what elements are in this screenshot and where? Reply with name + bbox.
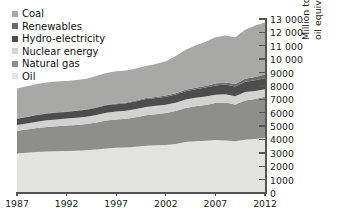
legend-item: Nuclear energy — [12, 46, 105, 58]
x-axis-tick-label: 2012 — [253, 199, 277, 209]
y-axis-title: Million tonnes oil equivalent — [300, 0, 323, 40]
legend-swatch-icon — [12, 48, 18, 54]
y-axis-tick-label: 7000 — [270, 95, 294, 104]
legend-item-label: Oil — [22, 71, 35, 82]
y-axis-tick — [259, 45, 266, 46]
y-axis-tick-label: 3000 — [270, 148, 294, 157]
x-axis-tick — [215, 192, 216, 196]
y-axis-tick — [259, 58, 266, 59]
legend-swatch-icon — [12, 73, 18, 79]
x-axis-tick-label: 2002 — [154, 199, 178, 209]
legend-swatch-icon — [12, 23, 18, 29]
legend-item-label: Hydro-electricity — [22, 33, 105, 44]
x-axis-tick — [116, 192, 117, 196]
legend: CoalRenewablesHydro-electricityNuclear e… — [12, 8, 105, 83]
y-axis-tick-label: 9000 — [270, 68, 294, 77]
legend-swatch-icon — [12, 61, 18, 67]
legend-item: Coal — [12, 8, 105, 20]
y-axis-tick — [259, 72, 266, 73]
x-axis-tick-label: 2007 — [204, 199, 228, 209]
y-axis-tick — [259, 112, 266, 113]
y-axis-tick-label: 13 000 — [270, 15, 303, 24]
y-axis-tick — [259, 85, 266, 86]
legend-item-label: Nuclear energy — [22, 46, 99, 57]
y-axis-tick-label: 6000 — [270, 108, 294, 117]
x-axis-tick — [264, 192, 265, 196]
x-axis-tick — [165, 192, 166, 196]
y-axis-tick — [259, 179, 266, 180]
x-axis-tick-label: 1987 — [5, 199, 29, 209]
y-axis-tick — [259, 139, 266, 140]
y-axis-tick — [259, 32, 266, 33]
legend-swatch-icon — [12, 36, 18, 42]
y-axis-tick-label: 8000 — [270, 81, 294, 90]
y-axis-tick — [259, 18, 266, 19]
y-axis-tick-label: 2000 — [270, 162, 294, 171]
y-axis-tick-label: 5000 — [270, 122, 294, 131]
legend-item: Hydro-electricity — [12, 33, 105, 45]
legend-item-label: Coal — [22, 8, 44, 19]
y-axis-tick — [259, 166, 266, 167]
y-axis-tick-label: 12 000 — [270, 28, 303, 37]
legend-item-label: Renewables — [22, 21, 82, 32]
x-axis-line — [17, 192, 266, 194]
legend-item: Renewables — [12, 21, 105, 33]
y-axis-tick-label: 11 000 — [270, 41, 303, 50]
y-axis-tick-label: 0 — [270, 189, 276, 198]
x-axis-tick-label: 1997 — [104, 199, 128, 209]
y-axis-tick-label: 10 000 — [270, 55, 303, 64]
legend-item: Oil — [12, 71, 105, 83]
y-axis-tick — [259, 99, 266, 100]
y-axis-tick — [259, 125, 266, 126]
y-axis-title-line-1: Million tonnes — [300, 0, 312, 40]
y-axis-tick-label: 1000 — [270, 175, 294, 184]
x-axis-tick — [66, 192, 67, 196]
y-axis-tick-label: 4000 — [270, 135, 294, 144]
x-axis-tick-label: 1992 — [55, 199, 79, 209]
stacked-area-chart: 010002000300040005000600070008000900010 … — [0, 0, 341, 223]
y-axis-title-line-2: oil equivalent — [312, 0, 324, 40]
y-axis-tick — [259, 152, 266, 153]
x-axis-tick — [16, 192, 17, 196]
legend-swatch-icon — [12, 11, 18, 17]
legend-item-label: Natural gas — [22, 58, 80, 69]
legend-item: Natural gas — [12, 58, 105, 70]
